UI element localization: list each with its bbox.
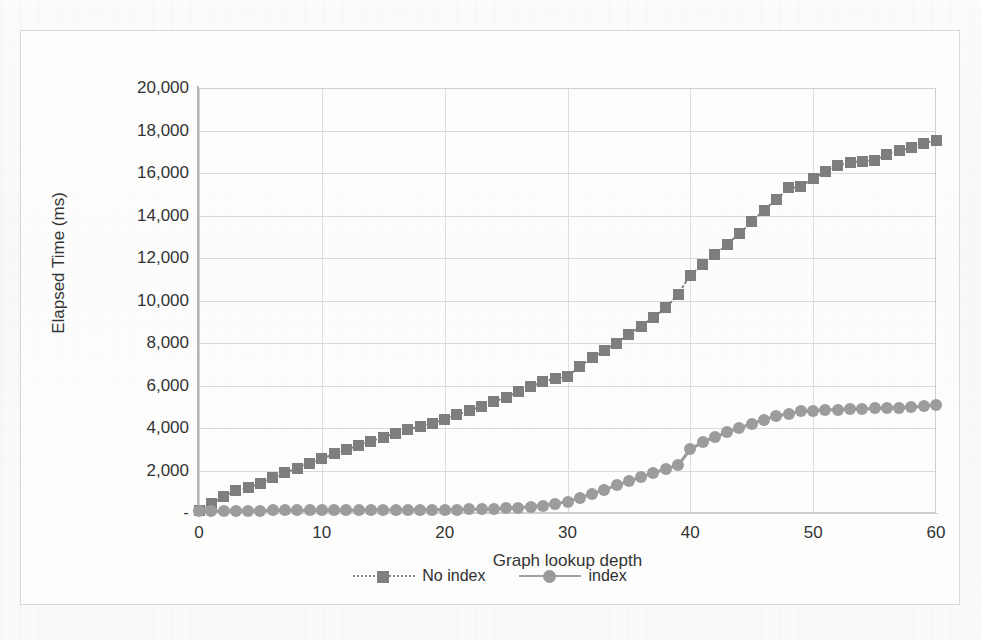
y-tick-label: 4,000 <box>29 419 189 436</box>
data-point-index <box>340 504 352 516</box>
data-point-index <box>586 488 598 500</box>
data-point-no-index <box>771 194 782 205</box>
data-point-index <box>746 418 758 430</box>
legend-marker-circle-icon <box>519 569 581 583</box>
data-point-index <box>267 504 279 516</box>
plot-area <box>199 88 936 513</box>
legend-symbol <box>543 570 556 583</box>
data-point-index <box>709 431 721 443</box>
legend-item-index[interactable]: index <box>519 567 626 585</box>
series-line-no-index <box>199 140 936 510</box>
chart-frame: -2,0004,0006,0008,00010,00012,00014,0001… <box>20 30 960 605</box>
series-lines <box>199 88 936 513</box>
data-point-no-index <box>894 145 905 156</box>
data-point-no-index <box>623 329 634 340</box>
data-point-index <box>402 504 414 516</box>
data-point-no-index <box>329 448 340 459</box>
data-point-index <box>230 505 242 517</box>
x-tick-label: 60 <box>906 523 966 543</box>
data-point-no-index <box>488 396 499 407</box>
data-point-no-index <box>501 392 512 403</box>
data-point-no-index <box>476 401 487 412</box>
data-point-no-index <box>353 440 364 451</box>
data-point-index <box>611 479 623 491</box>
data-point-index <box>537 500 549 512</box>
data-point-no-index <box>439 414 450 425</box>
data-point-no-index <box>931 135 942 146</box>
data-point-no-index <box>611 338 622 349</box>
data-point-index <box>623 475 635 487</box>
data-point-index <box>254 505 266 517</box>
data-point-index <box>598 484 610 496</box>
data-point-no-index <box>820 166 831 177</box>
data-point-no-index <box>304 458 315 469</box>
data-point-index <box>893 402 905 414</box>
data-point-index <box>390 504 402 516</box>
data-point-no-index <box>648 312 659 323</box>
data-point-index <box>869 402 881 414</box>
data-point-index <box>918 400 930 412</box>
data-point-index <box>476 503 488 515</box>
legend-item-no-index[interactable]: No index <box>353 567 485 585</box>
data-point-no-index <box>599 345 610 356</box>
data-point-no-index <box>415 421 426 432</box>
data-point-index <box>574 492 586 504</box>
x-tick-label: 0 <box>169 523 229 543</box>
data-point-no-index <box>795 181 806 192</box>
data-point-index <box>377 504 389 516</box>
data-point-no-index <box>857 156 868 167</box>
data-point-no-index <box>402 424 413 435</box>
data-point-no-index <box>316 453 327 464</box>
data-point-no-index <box>218 491 229 502</box>
data-point-no-index <box>550 373 561 384</box>
y-tick-label: 20,000 <box>29 79 189 96</box>
data-point-no-index <box>697 259 708 270</box>
data-point-index <box>328 504 340 516</box>
data-point-no-index <box>832 160 843 171</box>
data-point-no-index <box>722 239 733 250</box>
data-point-no-index <box>279 467 290 478</box>
data-point-no-index <box>685 270 696 281</box>
data-point-no-index <box>537 376 548 387</box>
data-point-no-index <box>255 478 266 489</box>
data-point-index <box>439 504 451 516</box>
chart-legend: No indexindex <box>21 567 959 585</box>
data-point-no-index <box>734 228 745 239</box>
data-point-index <box>697 436 709 448</box>
x-tick-label: 50 <box>783 523 843 543</box>
y-tick-label: - <box>29 504 189 521</box>
data-point-index <box>881 402 893 414</box>
data-point-no-index <box>243 482 254 493</box>
data-point-no-index <box>378 432 389 443</box>
data-point-no-index <box>808 173 819 184</box>
data-point-no-index <box>464 405 475 416</box>
data-point-no-index <box>562 371 573 382</box>
data-point-index <box>304 504 316 516</box>
data-point-index <box>783 408 795 420</box>
data-point-index <box>218 505 230 517</box>
legend-symbol <box>377 571 389 583</box>
data-point-no-index <box>783 182 794 193</box>
data-point-no-index <box>869 155 880 166</box>
data-point-no-index <box>341 444 352 455</box>
data-point-index <box>549 498 561 510</box>
data-point-index <box>562 496 574 508</box>
y-axis-tick-labels: -2,0004,0006,0008,00010,00012,00014,0001… <box>21 31 189 606</box>
data-point-index <box>832 404 844 416</box>
legend-marker-square-icon <box>353 569 415 583</box>
x-tick-label: 30 <box>538 523 598 543</box>
legend-label: index <box>588 567 626 585</box>
data-point-no-index <box>230 485 241 496</box>
data-point-index <box>635 471 647 483</box>
data-point-no-index <box>881 149 892 160</box>
data-point-index <box>844 403 856 415</box>
y-tick-label: 2,000 <box>29 462 189 479</box>
data-point-no-index <box>365 436 376 447</box>
data-point-no-index <box>525 381 536 392</box>
data-point-no-index <box>918 138 929 149</box>
data-point-index <box>426 504 438 516</box>
data-point-no-index <box>759 205 770 216</box>
data-point-no-index <box>636 321 647 332</box>
data-point-no-index <box>673 289 684 300</box>
data-point-no-index <box>427 418 438 429</box>
